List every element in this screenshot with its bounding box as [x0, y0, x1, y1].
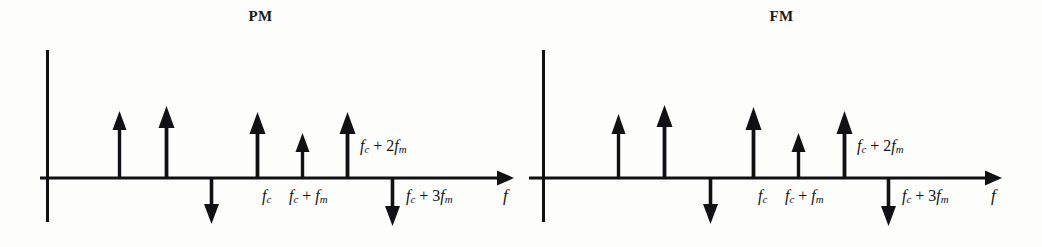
fm-axis-label-f: f [991, 186, 996, 206]
pm-spike-fc-minus-2fm [159, 106, 175, 178]
pm-spike-fc-plus-fm [296, 133, 310, 178]
figure-canvas: PM [0, 0, 1042, 247]
pm-label-fc-plus-3fm: fc + 3fm [406, 188, 453, 205]
fm-spike-fc-minus-fm [703, 178, 718, 224]
fm-spike-fc-plus-fm [792, 133, 806, 178]
fm-plot-svg [521, 0, 1042, 247]
fm-label-fc-plus-fm: fc + fm [785, 188, 824, 205]
pm-spike-fc-minus-3fm [113, 111, 127, 178]
fm-spike-fc-plus-2fm [837, 111, 853, 178]
pm-spike-fc-plus-2fm [340, 112, 356, 178]
pm-spike-fc [250, 112, 266, 178]
pm-x-axis-arrowhead [497, 171, 514, 186]
fm-label-fc: fc [758, 188, 767, 205]
pm-spike-fc-plus-3fm [385, 178, 400, 226]
pm-label-fc-plus-2fm: fc + 2fm [360, 138, 407, 155]
pm-axis-label-f: f [503, 186, 508, 206]
panel-pm: PM [0, 0, 521, 247]
panel-fm: FM [521, 0, 1042, 247]
fm-label-fc-plus-3fm: fc + 3fm [902, 188, 949, 205]
pm-plot-svg [0, 0, 521, 247]
fm-spike-fc-minus-3fm [612, 114, 626, 178]
pm-spike-fc-minus-fm [204, 178, 219, 224]
pm-label-fc: fc [262, 188, 271, 205]
fm-x-axis-arrowhead [985, 171, 1002, 186]
fm-spike-fc [746, 107, 762, 178]
fm-label-fc-plus-2fm: fc + 2fm [857, 138, 904, 155]
fm-spike-fc-plus-3fm [881, 178, 896, 226]
pm-label-fc-plus-fm: fc + fm [289, 188, 328, 205]
fm-spike-fc-minus-2fm [657, 105, 673, 178]
